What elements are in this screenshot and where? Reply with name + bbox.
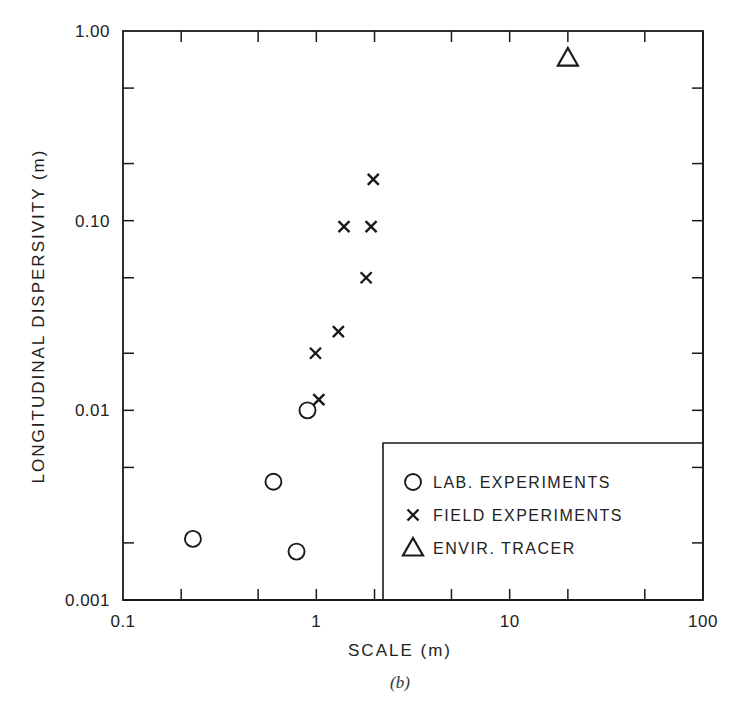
y-tick-label: 0.001 (65, 591, 110, 610)
scatter-chart: 0.11101000.0010.010.101.00 LAB. EXPERIME… (0, 0, 744, 712)
circle-marker-icon (265, 474, 281, 490)
x-tick-label: 1 (311, 612, 321, 631)
legend-item: FIELD EXPERIMENTS (408, 507, 623, 524)
x-marker-icon (333, 326, 344, 337)
legend-item: LAB. EXPERIMENTS (405, 474, 611, 491)
x-marker-icon (310, 348, 321, 359)
legend-label: ENVIR. TRACER (433, 540, 576, 557)
figure-caption: (b) (390, 673, 410, 692)
series-x (310, 174, 379, 405)
x-axis-title: SCALE (m) (348, 641, 452, 660)
x-marker-icon (361, 272, 372, 283)
x-tick-label: 10 (500, 612, 520, 631)
series-triangle (558, 48, 578, 66)
x-marker-icon (368, 174, 379, 185)
circle-marker-icon (185, 531, 201, 547)
y-axis-title: LONGITUDINAL DISPERSIVITY (m) (29, 149, 48, 484)
x-tick-label: 0.1 (110, 612, 135, 631)
y-tick-label: 1.00 (75, 22, 110, 41)
y-tick-label: 0.01 (75, 401, 110, 420)
y-tick-label: 0.10 (75, 212, 110, 231)
circle-marker-icon (289, 544, 305, 560)
x-marker-icon (338, 221, 349, 232)
x-tick-label: 100 (688, 612, 718, 631)
x-marker-icon (366, 221, 377, 232)
x-marker-icon (313, 394, 324, 405)
triangle-marker-icon (558, 48, 578, 66)
legend-label: FIELD EXPERIMENTS (433, 507, 623, 524)
legend: LAB. EXPERIMENTSFIELD EXPERIMENTSENVIR. … (123, 31, 703, 600)
legend-label: LAB. EXPERIMENTS (433, 474, 611, 491)
series-circle (185, 402, 316, 559)
